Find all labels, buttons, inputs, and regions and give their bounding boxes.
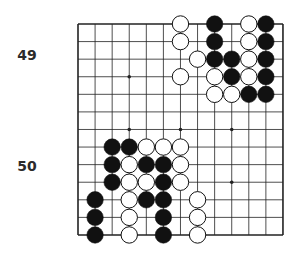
star-point — [230, 128, 234, 132]
star-point — [230, 180, 234, 184]
star-point — [127, 128, 131, 132]
go-board — [0, 0, 300, 257]
white-stone — [172, 156, 188, 172]
black-stone — [104, 174, 120, 190]
white-stone — [241, 51, 257, 67]
white-stone — [189, 209, 205, 225]
black-stone — [258, 86, 274, 102]
white-stone — [172, 69, 188, 85]
white-stone — [121, 227, 137, 243]
black-stone — [206, 33, 222, 49]
black-stone — [155, 192, 171, 208]
white-stone — [172, 174, 188, 190]
white-stone — [121, 174, 137, 190]
white-stone — [121, 192, 137, 208]
white-stone — [121, 156, 137, 172]
black-stone — [258, 16, 274, 32]
star-point — [127, 75, 131, 79]
white-stone — [206, 86, 222, 102]
black-stone — [138, 192, 154, 208]
white-stone — [206, 69, 222, 85]
black-stone — [224, 51, 240, 67]
black-stone — [155, 174, 171, 190]
white-stone — [241, 33, 257, 49]
black-stone — [206, 16, 222, 32]
star-point — [179, 128, 183, 132]
white-stone — [138, 174, 154, 190]
white-stone — [241, 16, 257, 32]
black-stone — [121, 139, 137, 155]
black-stone — [224, 69, 240, 85]
white-stone — [224, 86, 240, 102]
black-stone — [241, 86, 257, 102]
black-stone — [155, 209, 171, 225]
white-stone — [189, 51, 205, 67]
white-stone — [189, 192, 205, 208]
black-stone — [258, 69, 274, 85]
black-stone — [104, 139, 120, 155]
white-stone — [172, 33, 188, 49]
white-stone — [138, 139, 154, 155]
black-stone — [87, 227, 103, 243]
white-stone — [172, 139, 188, 155]
white-stone — [121, 209, 137, 225]
black-stone — [87, 209, 103, 225]
black-stone — [206, 51, 222, 67]
white-stone — [189, 227, 205, 243]
black-stone — [258, 33, 274, 49]
black-stone — [104, 156, 120, 172]
white-stone — [155, 139, 171, 155]
white-stone — [241, 69, 257, 85]
black-stone — [155, 227, 171, 243]
black-stone — [138, 156, 154, 172]
white-stone — [172, 16, 188, 32]
black-stone — [87, 192, 103, 208]
black-stone — [155, 156, 171, 172]
black-stone — [258, 51, 274, 67]
